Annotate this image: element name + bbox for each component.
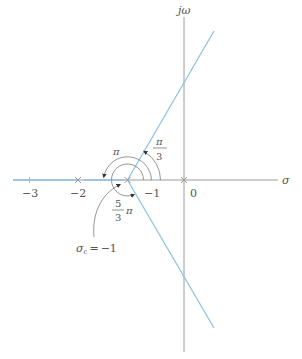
tick-label-zero: 0 (190, 187, 197, 200)
real-axis-label: σ (282, 174, 290, 187)
imag-axis-label: jω (175, 4, 190, 17)
centroid-value: −1 (101, 242, 117, 255)
centroid-equals: = (89, 242, 98, 255)
angle-label-five-thirds-den: 3 (115, 212, 121, 223)
centroid-subscript: c (84, 248, 88, 256)
angle-label-five-thirds-pi: π (125, 205, 133, 216)
centroid-label: σc=−1 (76, 242, 117, 256)
angle-label-pi: π (112, 146, 120, 157)
tick-label-neg3: −3 (22, 187, 38, 200)
root-locus-diagram: jω σ −3 −2 −1 0 π 3 π 5 3 π σc=−1 (0, 0, 302, 359)
tick-label-neg1: −1 (144, 187, 160, 200)
angle-label-five-thirds-num: 5 (115, 198, 121, 209)
centroid-leader-line (94, 185, 119, 237)
tick-label-neg2: −2 (70, 187, 86, 200)
angle-label-pi-over-3-num: π (155, 136, 163, 147)
angle-label-pi-over-3-den: 3 (156, 151, 162, 162)
asymptote-lower (128, 180, 215, 328)
asymptote-upper (128, 31, 215, 180)
angle-arc-pi (104, 157, 152, 180)
